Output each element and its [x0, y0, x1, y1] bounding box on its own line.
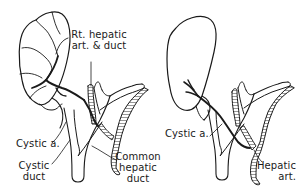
label-line: duct [115, 173, 161, 184]
label-line: Cystic a. [165, 128, 209, 139]
label-common-hepatic-duct: Common hepatic duct [115, 151, 161, 184]
cystic-artery-branches-left [32, 56, 58, 88]
gallbladder-left [19, 12, 70, 105]
label-line: hepatic [115, 162, 161, 173]
label-line: Cystic a. [16, 138, 60, 149]
label-line: art. [256, 171, 296, 182]
label-line: duct [16, 171, 52, 182]
label-line: Rt. hepatic [70, 29, 128, 40]
label-cystic-duct-left: Cystic duct [16, 160, 52, 182]
label-line: Cystic [16, 160, 52, 171]
label-line: art. & duct [70, 40, 128, 51]
label-line: Hepatic [256, 160, 296, 171]
label-hepatic-artery-right: Hepatic art. [256, 160, 296, 182]
label-cystic-artery-right: Cystic a. [165, 128, 209, 139]
label-rt-hepatic-art-duct: Rt. hepatic art. & duct [70, 29, 128, 51]
cystic-duct-left [64, 96, 110, 182]
label-cystic-artery-left: Cystic a. [16, 138, 60, 149]
label-line: Common [115, 151, 161, 162]
gallbladder-right [167, 16, 216, 110]
anatomy-figure: Rt. hepatic art. & duct Cystic a. Cystic… [0, 0, 308, 194]
